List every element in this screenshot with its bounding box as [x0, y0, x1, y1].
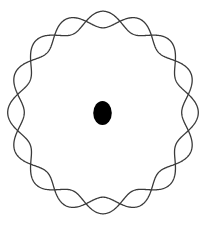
standing-wave-diagram [0, 0, 211, 226]
nucleus-dot [93, 101, 112, 125]
